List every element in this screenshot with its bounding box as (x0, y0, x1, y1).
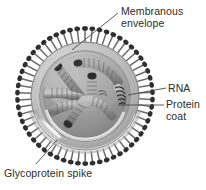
label-rna-line1: RNA (168, 82, 190, 94)
label-protein-coat-line1: Protein (166, 98, 200, 110)
label-rna: RNA (168, 83, 190, 95)
label-glycoprotein-spike: Glycoprotein spike (4, 168, 92, 180)
label-protein-coat: Protein coat (166, 99, 200, 122)
label-glycoprotein-spike-line1: Glycoprotein spike (4, 167, 92, 179)
label-membranous-envelope-line2: envelope (121, 18, 183, 30)
label-protein-coat-line2: coat (166, 111, 200, 123)
label-membranous-envelope-line1: Membranous (121, 5, 183, 17)
label-membranous-envelope: Membranous envelope (121, 6, 183, 29)
virus-structure-figure: Membranous envelope RNA Protein coat Gly… (0, 0, 206, 190)
